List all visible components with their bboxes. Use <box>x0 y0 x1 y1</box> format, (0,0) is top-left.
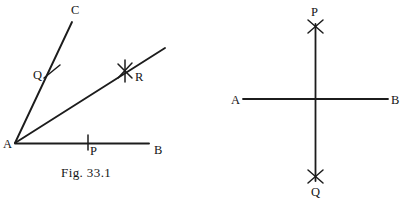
label-Q-left: Q <box>33 68 42 82</box>
figure-canvas: A B C P Q R Fig. 33.1 <box>0 0 400 203</box>
label-B-left: B <box>154 143 162 157</box>
figure-caption: Fig. 33.1 <box>61 165 111 180</box>
label-P-right: P <box>311 5 318 19</box>
label-C-left: C <box>71 3 79 17</box>
panel-angle-bisector: A B C P Q R Fig. 33.1 <box>3 3 165 180</box>
label-A-left: A <box>3 137 12 151</box>
arc-mark-Q <box>44 65 60 78</box>
label-P-left: P <box>90 144 97 158</box>
panel-perpendicular-bisector: A B P Q <box>231 5 399 199</box>
label-A-right: A <box>231 93 240 107</box>
label-B-right: B <box>391 93 399 107</box>
geometry-figure: A B C P Q R Fig. 33.1 <box>0 0 400 203</box>
label-R-left: R <box>135 70 144 84</box>
label-Q-right: Q <box>311 185 320 199</box>
